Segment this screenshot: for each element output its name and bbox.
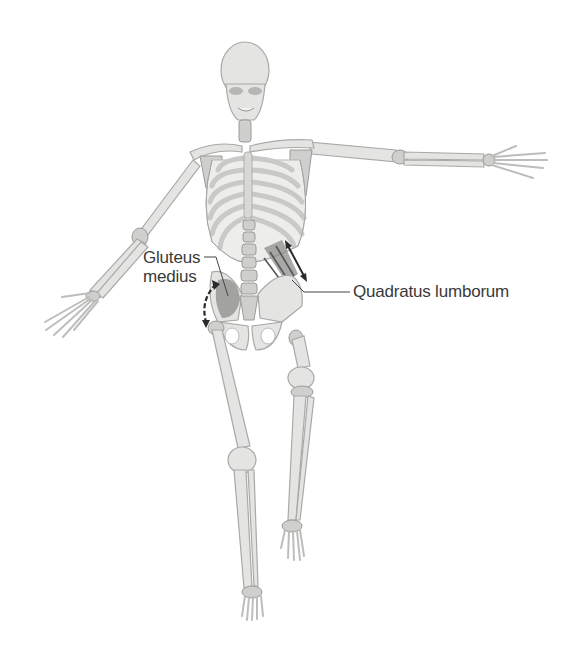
stance-leg — [208, 321, 263, 620]
label-quadratus-lumborum: Quadratus lumborum — [353, 282, 509, 301]
label-gluteus-line1: Gluteus — [143, 248, 200, 267]
skeleton-illustration — [0, 0, 576, 658]
left-arm — [308, 142, 547, 178]
label-gluteus-medius: Gluteus medius — [143, 248, 200, 286]
skull — [221, 42, 269, 142]
raised-leg — [281, 330, 314, 560]
label-gluteus-line2: medius — [143, 267, 200, 286]
